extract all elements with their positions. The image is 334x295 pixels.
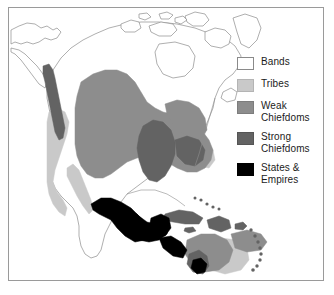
legend-item-bands[interactable]: Bands [237,56,323,70]
island-puerto-rico [235,222,247,230]
legend-item-strong-chiefdoms[interactable]: Strong Chiefdoms [237,131,323,154]
legend-item-tribes[interactable]: Tribes [237,78,323,92]
figure-frame: Bands Tribes Weak Chiefdoms Strong Chief… [8,7,324,281]
landmass-alaska [11,23,61,44]
island-bahamas-5 [194,197,197,200]
legend-label-bands: Bands [261,56,290,68]
island-lesser-antilles-4 [258,246,261,249]
landmass-greenland-edge [233,14,261,48]
legend-swatch-strong-chiefdoms [237,132,254,145]
island-lesser-antilles-5 [259,252,262,255]
island-lesser-antilles-2 [253,234,256,237]
figure-root: Bands Tribes Weak Chiefdoms Strong Chief… [0,0,334,295]
island-bahamas-3 [211,205,214,208]
legend-label-weak-chiefdoms: Weak Chiefdoms [261,100,310,123]
legend-label-strong-chiefdoms: Strong Chiefdoms [261,131,310,154]
island-lesser-antilles-6 [258,258,261,261]
island-bahamas-2 [205,202,208,205]
region-maya-lowlands [149,214,171,236]
island-bahamas-4 [218,208,221,211]
landmass-arctic-islet-a [159,12,173,19]
region-isthmus [159,236,187,258]
region-venezuela-coast [231,230,267,252]
legend-swatch-tribes [237,79,254,92]
landmass-alaska-panhandle [11,48,47,88]
island-trinidad [251,268,255,272]
landmass-ellesmere-island [185,12,209,26]
island-jamaica [184,227,196,233]
map-legend: Bands Tribes Weak Chiefdoms Strong Chief… [237,56,323,193]
landmass-banks-island [121,20,141,32]
coastline-gulf [127,190,185,206]
legend-item-states-empires[interactable]: States & Empires [237,162,323,185]
legend-label-states-empires: States & Empires [261,162,300,185]
island-bahamas-1 [199,198,202,201]
island-lesser-antilles-7 [255,264,258,267]
legend-item-weak-chiefdoms[interactable]: Weak Chiefdoms [237,100,323,123]
island-hispaniola [207,216,231,232]
legend-label-tribes: Tribes [261,78,289,90]
landmass-newfoundland [221,88,237,102]
legend-swatch-states-empires [237,163,254,176]
legend-swatch-weak-chiefdoms [237,101,254,114]
legend-swatch-bands [237,57,254,70]
region-central-mexico [111,210,149,242]
island-lesser-antilles-3 [256,240,259,243]
island-lesser-antilles-1 [249,228,252,231]
landmass-arctic-islet-c [139,13,151,20]
